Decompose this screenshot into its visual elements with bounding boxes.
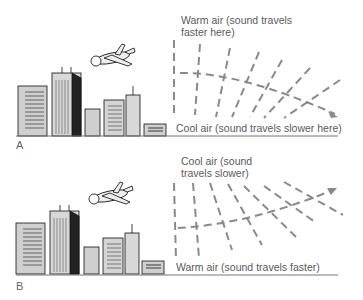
panel-a: Warm air (sound travels faster here) Coo… bbox=[0, 0, 363, 150]
sound-ray bbox=[178, 188, 337, 228]
airplane-icon bbox=[89, 182, 133, 205]
top-label-line2: faster here) bbox=[181, 26, 292, 38]
wavefronts bbox=[174, 182, 343, 260]
wavefronts bbox=[174, 40, 340, 118]
top-label-line1: Warm air (sound travels bbox=[181, 14, 292, 26]
top-label: Cool air (sound travels slower) bbox=[181, 155, 252, 179]
panel-b: Cool air (sound travels slower) Warm air… bbox=[0, 150, 363, 300]
city-skyline-icon bbox=[16, 205, 164, 274]
arrowhead-icon bbox=[327, 188, 337, 195]
top-label-line1: Cool air (sound bbox=[181, 155, 252, 167]
sound-ray bbox=[180, 73, 338, 118]
bottom-label: Cool air (sound travels slower here) bbox=[176, 122, 342, 134]
city-skyline-icon bbox=[18, 67, 166, 136]
top-label: Warm air (sound travels faster here) bbox=[181, 14, 292, 38]
top-label-line2: travels slower) bbox=[181, 167, 252, 179]
bottom-label: Warm air (sound travels faster) bbox=[176, 261, 320, 273]
panel-letter: B bbox=[16, 280, 23, 292]
airplane-icon bbox=[91, 44, 135, 67]
